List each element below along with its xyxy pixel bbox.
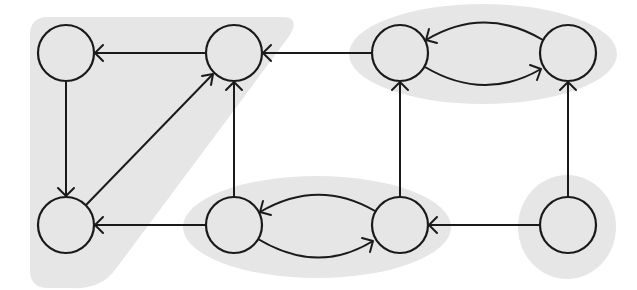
graph-diagram	[0, 0, 637, 290]
component-bottom-middle-ellipse	[183, 176, 451, 278]
component-regions	[30, 4, 617, 288]
component-top-right-ellipse	[349, 4, 617, 104]
